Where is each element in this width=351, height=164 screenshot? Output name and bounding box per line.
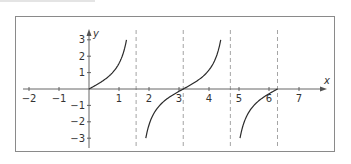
- x-tick-label: −2: [22, 93, 37, 104]
- x-axis-arrow-icon: [320, 87, 327, 92]
- y-tick-label: −2: [70, 116, 85, 127]
- y-tick-label: 1: [79, 67, 85, 78]
- y-tick-label: 2: [79, 51, 85, 62]
- y-tick-label: 3: [79, 34, 85, 45]
- x-tick-label: 4: [206, 93, 212, 104]
- y-axis-label: y: [92, 28, 100, 39]
- x-tick-label: 2: [146, 93, 152, 104]
- x-axis-label: x: [323, 75, 330, 86]
- y-tick-label: −3: [70, 133, 85, 144]
- curve-branch-1: [89, 40, 126, 89]
- x-ticks: −2−11234567: [22, 87, 303, 104]
- y-tick-label: −1: [70, 100, 85, 111]
- axes: x y: [23, 28, 330, 148]
- tan-function-plot: x y −2−11234567 −3−2−1123: [0, 0, 351, 164]
- x-tick-label: 7: [296, 93, 302, 104]
- y-axis-arrow-icon: [87, 29, 92, 36]
- x-tick-label: 3: [176, 93, 182, 104]
- x-tick-label: 1: [116, 93, 122, 104]
- x-tick-label: −1: [52, 93, 67, 104]
- x-tick-label: 5: [236, 93, 242, 104]
